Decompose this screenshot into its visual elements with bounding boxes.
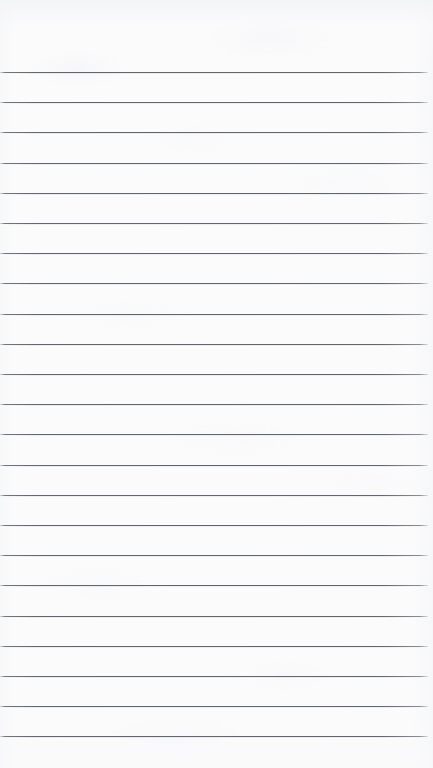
page-footer-area [0, 737, 433, 768]
writing-area[interactable] [0, 72, 433, 737]
scanned-page [0, 0, 433, 768]
